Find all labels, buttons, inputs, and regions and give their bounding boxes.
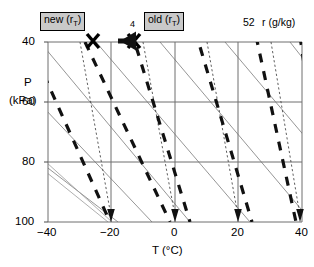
xtick-40: 40	[295, 227, 308, 239]
new-isohume-label-text: new (r	[44, 13, 73, 25]
isohume-units-label: r (g/kg)	[262, 16, 295, 28]
new-isohume-label-close: )	[78, 13, 82, 25]
xtick-20: 20	[231, 227, 244, 239]
xtick-neg40: −40	[37, 227, 57, 239]
new-isohume-label: new (rT)	[40, 12, 85, 31]
ytick-40: 40	[22, 36, 35, 48]
yaxis-title-line1: P	[24, 77, 32, 89]
ytick-80: 80	[22, 156, 35, 168]
old-isohume-label: old (rT)	[144, 12, 184, 31]
isohume-value-4: 4	[130, 19, 135, 29]
xtick-neg20: −20	[100, 227, 120, 239]
xtick-0: 0	[171, 227, 177, 239]
isohume-value-52: 52	[243, 16, 255, 28]
xaxis-title: T (°C)	[152, 245, 183, 257]
old-isohume-label-text: old (r	[148, 13, 172, 25]
ytick-100: 100	[15, 216, 34, 228]
old-isohume-label-close: )	[177, 13, 181, 25]
yaxis-title-line2: (kPa)	[9, 95, 36, 107]
